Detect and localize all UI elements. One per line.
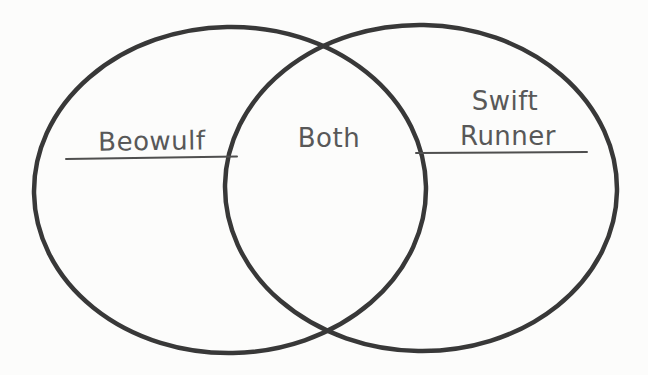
- right-label-rule: [416, 152, 587, 153]
- intersection-label: Both: [298, 123, 360, 153]
- left-label-rule: [66, 157, 237, 160]
- right-circle-outline: [222, 22, 620, 355]
- venn-diagram: Beowulf Both Swift Runner: [0, 0, 648, 375]
- venn-diagram-svg: Beowulf Both Swift Runner: [0, 0, 648, 375]
- left-set-label: Beowulf: [98, 125, 206, 157]
- right-set-label-line1: Swift: [472, 86, 538, 116]
- right-set-label-line2: Runner: [460, 121, 556, 151]
- left-circle-outline: [31, 24, 429, 357]
